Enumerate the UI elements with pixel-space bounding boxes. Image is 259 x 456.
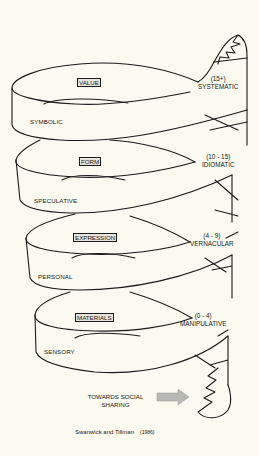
mode-label-vernacular: VERNACULAR — [190, 240, 234, 248]
age-range-15plus: (15+) SYSTEMATIC — [198, 75, 238, 90]
band-form-bottom — [16, 160, 232, 213]
mode-label-manipulative: MANIPULATIVE — [180, 320, 226, 328]
age-range-0-4: (0 - 4) MANIPULATIVE — [180, 312, 226, 327]
social-sharing-label: TOWARDS SOCIAL SHARING — [78, 393, 153, 408]
band-value-top — [12, 63, 198, 104]
layer-label-form: FORM — [79, 157, 101, 166]
mode-label-sensory: SENSORY — [44, 349, 75, 355]
band-form-top — [16, 140, 195, 177]
mode-label-symbolic: SYMBOLIC — [30, 119, 63, 125]
age-range-4-9: (4 - 9) VERNACULAR — [190, 232, 234, 247]
layer-label-materials: MATERIALS — [75, 313, 114, 322]
spiral-top-torn-end — [214, 35, 247, 110]
credit-authors: Swanwick and Tillman — [75, 429, 134, 435]
band-materials-top — [35, 292, 192, 331]
credit-line: Swanwick and Tillman(1986) — [75, 429, 154, 435]
mode-label-speculative: SPECULATIVE — [34, 198, 77, 204]
layer-label-value: VALUE — [77, 78, 101, 87]
mode-label-personal: PERSONAL — [38, 274, 73, 280]
spiral-diagram — [0, 0, 259, 456]
mode-label-systematic: SYSTEMATIC — [198, 83, 238, 91]
credit-year: (1986) — [140, 429, 154, 435]
layer-label-expression: EXPRESSION — [73, 233, 117, 242]
right-arrow-icon — [157, 389, 189, 405]
band-value-bottom — [12, 88, 247, 141]
mode-label-idiomatic: IDIOMATIC — [202, 161, 235, 169]
age-range-10-15: (10 - 15) IDIOMATIC — [202, 153, 235, 168]
spiral-bottom-torn-end — [198, 368, 231, 418]
